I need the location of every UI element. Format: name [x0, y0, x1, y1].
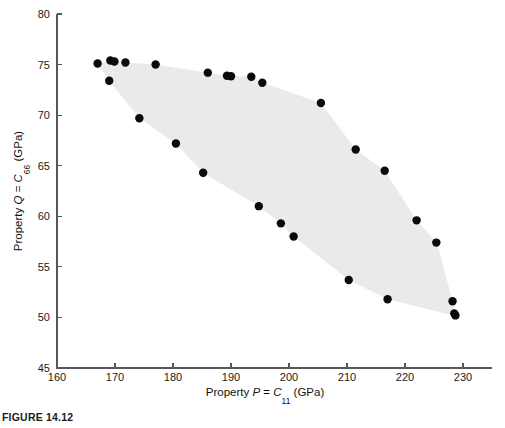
data-point — [247, 73, 255, 81]
x-tick-label: 190 — [222, 371, 240, 383]
y-tick-label: 45 — [38, 362, 50, 374]
x-tick-label: 210 — [338, 371, 356, 383]
data-point — [345, 276, 353, 284]
data-point — [151, 60, 159, 68]
x-tick-label: 170 — [106, 371, 124, 383]
y-tick-label: 55 — [38, 261, 50, 273]
figure-container: 160170180190200210220230 455055606570758… — [0, 0, 505, 428]
data-point — [277, 219, 285, 227]
y-axis-title: Property Q = C66 (GPa) — [12, 131, 32, 252]
data-point — [204, 68, 212, 76]
attainable-region-polygon — [98, 61, 455, 316]
data-point — [121, 58, 129, 66]
data-point — [451, 311, 459, 319]
data-point — [352, 145, 360, 153]
data-point — [381, 167, 389, 175]
data-point — [317, 99, 325, 107]
x-axis-ticks: 160170180190200210220230 — [48, 363, 472, 383]
data-point — [172, 139, 180, 147]
x-tick-label: 200 — [280, 371, 298, 383]
data-point — [227, 72, 235, 80]
data-point — [135, 114, 143, 122]
y-tick-label: 50 — [38, 311, 50, 323]
data-point — [258, 79, 266, 87]
data-point — [289, 232, 297, 240]
data-point — [255, 202, 263, 210]
x-tick-label: 160 — [48, 371, 66, 383]
y-axis-ticks: 4550556065707580 — [38, 8, 62, 374]
data-point — [93, 59, 101, 67]
y-tick-label: 70 — [38, 109, 50, 121]
data-point — [383, 295, 391, 303]
x-tick-label: 180 — [164, 371, 182, 383]
x-tick-label: 230 — [454, 371, 472, 383]
x-axis-title: Property P = C11 (GPa) — [206, 386, 325, 406]
data-point — [110, 57, 118, 65]
data-point — [199, 169, 207, 177]
data-point — [105, 77, 113, 85]
shaded-region — [98, 61, 455, 316]
y-tick-label: 65 — [38, 160, 50, 172]
y-tick-label: 80 — [38, 8, 50, 20]
data-point — [412, 216, 420, 224]
data-point — [448, 297, 456, 305]
x-tick-label: 220 — [396, 371, 414, 383]
y-tick-label: 75 — [38, 59, 50, 71]
y-tick-label: 60 — [38, 210, 50, 222]
scatter-plot: 160170180190200210220230 455055606570758… — [0, 0, 505, 428]
data-point — [432, 238, 440, 246]
figure-caption: FIGURE 14.12 — [2, 411, 73, 428]
